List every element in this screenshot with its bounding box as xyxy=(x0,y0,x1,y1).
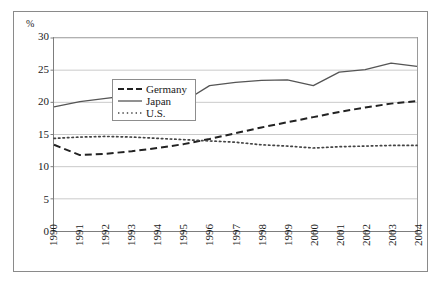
legend-item-germany: Germany xyxy=(117,83,195,95)
y-tick-label: 15 xyxy=(15,129,49,140)
legend-label-us: U.S. xyxy=(146,107,166,119)
x-tick-label: 1994 xyxy=(151,234,163,246)
y-tick-label: 20 xyxy=(15,96,49,107)
legend-item-us: U.S. xyxy=(117,107,195,119)
legend-swatch-dotted-icon xyxy=(117,108,143,118)
y-tick-label: 10 xyxy=(15,161,49,172)
x-tick-label: 1990 xyxy=(47,234,59,246)
x-tick-label: 1993 xyxy=(125,234,137,246)
x-tick-label: 1998 xyxy=(256,234,268,246)
y-axis-tick-labels: 051015202530 xyxy=(13,37,49,232)
x-tick-label: 1995 xyxy=(177,234,189,246)
x-tick-label: 2004 xyxy=(412,234,424,246)
y-tick-label: 5 xyxy=(15,194,49,205)
legend-swatch-dashed-icon xyxy=(117,84,143,94)
x-tick-label: 1996 xyxy=(203,234,215,246)
x-tick-label: 2000 xyxy=(308,234,320,246)
y-tick-label: 0 xyxy=(15,226,49,237)
x-tick-label: 1992 xyxy=(99,234,111,246)
y-tick-label: 25 xyxy=(15,64,49,75)
y-tick-label: 30 xyxy=(15,31,49,42)
x-tick-label: 1991 xyxy=(73,234,85,246)
legend: Germany Japan U.S. xyxy=(112,79,196,121)
series-line-japan xyxy=(54,63,417,107)
x-tick-label: 2003 xyxy=(386,234,398,246)
legend-label-japan: Japan xyxy=(146,95,171,107)
legend-item-japan: Japan xyxy=(117,95,195,107)
series-line-us xyxy=(54,136,417,148)
legend-label-germany: Germany xyxy=(146,83,187,95)
series-lines xyxy=(54,38,417,231)
x-tick-label: 1997 xyxy=(230,234,242,246)
y-axis-unit-label: % xyxy=(26,18,34,29)
x-axis-tick-labels: 1990199119921993199419951996199719981999… xyxy=(53,234,418,274)
chart-figure: % 051015202530 Germany Japan xyxy=(0,0,439,287)
x-tick-label: 2002 xyxy=(360,234,372,246)
legend-swatch-solid-icon xyxy=(117,96,143,106)
x-tick-label: 1999 xyxy=(282,234,294,246)
plot-area: Germany Japan U.S. xyxy=(53,37,418,232)
x-tick-label: 2001 xyxy=(334,234,346,246)
